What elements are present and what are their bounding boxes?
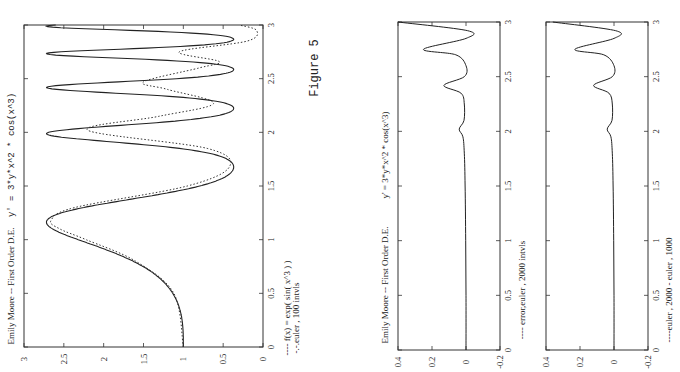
main-legend-euler: -.-.euler , 100 intvls <box>291 282 301 353</box>
tick-label: 1.5 <box>266 181 276 192</box>
difference-plot-ticks: 00.511.522.53-0.200.20.4 <box>541 20 661 369</box>
tick-label: 0 <box>461 360 471 364</box>
euler-difference-curve <box>553 22 622 350</box>
figure-label: Figure 5 <box>308 39 322 97</box>
tick-label: 0 <box>609 360 619 364</box>
tick-label: 3 <box>19 357 29 361</box>
error-title-left: Emily Moore -- First Order D.E. <box>380 226 390 343</box>
tick-label: 2.5 <box>59 354 69 365</box>
tick-label: 0.5 <box>503 290 513 301</box>
main-title-right: y' = 3*y*x^2 * cos(x^3) <box>7 93 17 217</box>
main-plot: 00.511.522.5300.511.522.53 Emily Moore -… <box>6 23 322 364</box>
tick-label: 2.5 <box>503 71 513 82</box>
error-title-right: y' = 3*y*x^2 * cos(x^3) <box>380 111 390 198</box>
tick-label: 0.5 <box>218 354 228 365</box>
tick-label: 1.5 <box>139 354 149 365</box>
tick-label: 2 <box>503 129 513 133</box>
difference-plot-frame <box>546 22 648 350</box>
tick-label: 0.5 <box>266 288 276 299</box>
error-plot-ticks: 00.511.522.53-0.200.20.4 <box>393 20 513 369</box>
error-euler-2000-curve <box>398 22 474 350</box>
tick-label: 1.5 <box>651 181 661 192</box>
tick-label: 2.5 <box>651 71 661 82</box>
tick-label: 0 <box>651 348 661 352</box>
tick-label: 3 <box>503 20 513 24</box>
tick-label: 0.4 <box>541 356 551 367</box>
tick-label: -0.2 <box>495 355 505 368</box>
difference-plot: 00.511.522.53-0.200.20.4 ----euler , 200… <box>541 20 674 369</box>
tick-label: 0 <box>258 357 268 361</box>
tick-label: 0.2 <box>575 357 585 368</box>
main-title-left: Emily Moore -- First Order D.E. <box>6 227 16 344</box>
error-legend: ---- error,euler , 2000 intvls <box>517 240 527 339</box>
tick-label: 3 <box>266 23 276 27</box>
main-plot-ticks: 00.511.522.5300.511.522.53 <box>19 23 276 364</box>
tick-label: 0.4 <box>393 356 403 367</box>
tick-label: 3 <box>651 20 661 24</box>
difference-legend: ----euler , 2000 - euler , 1000 <box>664 237 674 342</box>
tick-label: 0 <box>266 345 276 349</box>
error-plot: 00.511.522.53-0.200.20.4 Emily Moore -- … <box>380 20 527 369</box>
tick-label: 2.5 <box>266 73 276 84</box>
exact-solution-curve <box>47 25 234 347</box>
error-plot-frame <box>398 22 500 350</box>
tick-label: 1 <box>503 239 513 243</box>
tick-label: 2 <box>99 357 109 361</box>
tick-label: 1 <box>266 238 276 242</box>
tick-label: 1 <box>651 239 661 243</box>
tick-label: -0.2 <box>643 355 653 368</box>
tick-label: 2 <box>266 130 276 134</box>
tick-label: 1 <box>178 357 188 361</box>
tick-label: 0 <box>503 348 513 352</box>
tick-label: 2 <box>651 129 661 133</box>
tick-label: 1.5 <box>503 181 513 192</box>
tick-label: 0.2 <box>427 357 437 368</box>
tick-label: 0.5 <box>651 290 661 301</box>
figure-5-page: 00.511.522.5300.511.522.53 Emily Moore -… <box>0 0 680 372</box>
